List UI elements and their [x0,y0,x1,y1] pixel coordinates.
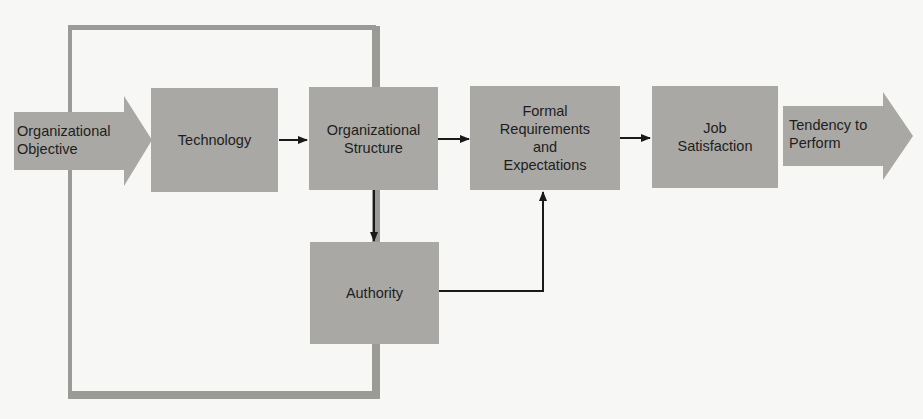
node-formal-requirements: Formal Requirements and Expectations [470,86,620,190]
input-label: Organizational Objective [17,122,111,158]
node-job-satisfaction-label: Job Satisfaction [678,119,753,155]
node-organizational-structure: Organizational Structure [309,87,438,190]
frame-and-connectors [0,0,923,419]
node-technology-label: Technology [178,131,251,149]
edge-authority-to-requirements [439,192,543,291]
node-formal-requirements-label: Formal Requirements and Expectations [500,102,590,174]
node-technology: Technology [151,88,278,192]
output-arrow-tendency-to-perform: Tendency to Perform [783,92,913,182]
node-authority-label: Authority [346,284,403,302]
node-organizational-structure-label: Organizational Structure [327,121,421,157]
node-authority: Authority [310,242,439,344]
output-label: Tendency to Perform [789,116,867,152]
node-job-satisfaction: Job Satisfaction [652,86,778,188]
input-arrow-organizational-objective: Organizational Objective [14,96,152,186]
